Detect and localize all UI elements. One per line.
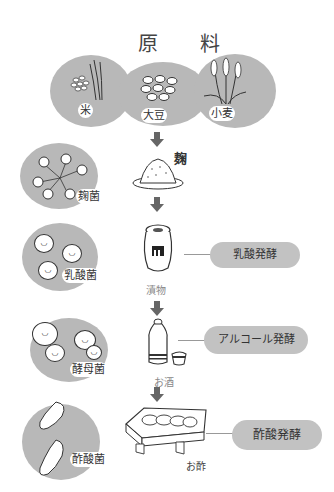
bacteria-face-icon bbox=[38, 261, 58, 280]
product-label-vinegar: お酢 bbox=[186, 458, 206, 473]
pickle-jar-icon bbox=[140, 222, 176, 276]
product-label-pickles: 漬物 bbox=[146, 282, 166, 297]
ingredient-label-rice: 米 bbox=[78, 103, 93, 118]
fermentation-cloud-acetic: 酢酸発酵 bbox=[232, 420, 322, 450]
yeast-face-icon bbox=[86, 345, 102, 360]
raw-materials-title: 原 料 bbox=[138, 28, 238, 57]
arrow-down-icon bbox=[149, 197, 165, 213]
arrow-down-icon bbox=[149, 301, 165, 317]
sake-bottle-icon bbox=[144, 318, 190, 368]
rice-plant-icon bbox=[64, 58, 108, 102]
ingredient-label-soybean: 大豆 bbox=[141, 108, 167, 123]
bacteria-face-icon bbox=[34, 234, 54, 253]
bacteria-face-icon bbox=[62, 244, 82, 263]
arrow-down-icon bbox=[149, 132, 165, 148]
fermentation-label-acetic: 酢酸発酵 bbox=[253, 428, 301, 442]
soybeans-icon bbox=[140, 74, 186, 102]
fermentation-label-lactic: 乳酸発酵 bbox=[233, 248, 277, 261]
fermentation-cloud-lactic: 乳酸発酵 bbox=[210, 242, 300, 268]
vinegar-tray-icon bbox=[122, 402, 208, 456]
microbe-label-yeast: 酵母菌 bbox=[70, 362, 107, 377]
ingredient-label-wheat: 小麦 bbox=[209, 106, 235, 121]
fermentation-cloud-alcohol: アルコール発酵 bbox=[204, 326, 308, 354]
product-label-koji: 麹 bbox=[174, 148, 187, 167]
acetic-bacteria-icon bbox=[34, 398, 76, 480]
microbe-label-lactic: 乳酸菌 bbox=[62, 268, 99, 283]
wheat-icon bbox=[200, 56, 250, 106]
arrow-down-icon bbox=[149, 387, 165, 403]
fermentation-label-alcohol: アルコール発酵 bbox=[218, 333, 295, 346]
microbe-label-koji: 麹菌 bbox=[76, 189, 102, 204]
yeast-face-icon bbox=[45, 344, 65, 362]
yeast-face-icon bbox=[32, 322, 58, 346]
microbe-label-acetic: 酢酸菌 bbox=[70, 452, 107, 467]
